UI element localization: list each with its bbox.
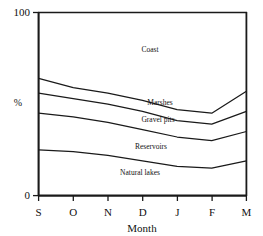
stacked-area-chart: 100 0 % S O N D J F M Month Coast Marshe…: [0, 0, 263, 236]
band-label-natural-lakes: Natural lakes: [120, 168, 160, 177]
band-label-marshes: Marshes: [147, 98, 172, 107]
x-tick-label-o: O: [69, 206, 77, 218]
x-tick-label-s: S: [36, 206, 42, 218]
chart-figure: 100 0 % S O N D J F M Month Coast Marshe…: [0, 0, 263, 236]
band-label-reservoirs: Reservoirs: [135, 142, 167, 151]
y-tick-label-0: 0: [25, 189, 31, 201]
y-tick-label-100: 100: [14, 6, 31, 18]
band-label-coast: Coast: [141, 45, 159, 54]
x-tick-label-n: N: [104, 206, 112, 218]
x-tick-label-f: F: [209, 206, 215, 218]
x-tick-label-d: D: [139, 206, 147, 218]
band-label-gravel-pits: Gravel pits: [141, 115, 174, 124]
y-axis-title: %: [14, 97, 22, 108]
x-axis-title: Month: [127, 222, 157, 234]
x-tick-label-j: J: [175, 206, 180, 218]
x-tick-label-m: M: [242, 206, 252, 218]
